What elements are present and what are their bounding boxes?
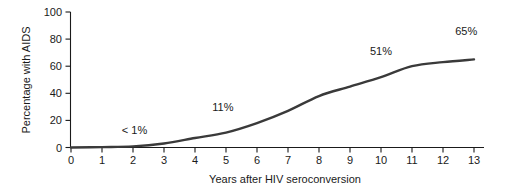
x-tick-label-11: 11 (406, 154, 417, 166)
x-tick-label-12: 12 (437, 154, 449, 166)
x-axis-tick-labels: 0 1 2 3 4 5 6 7 8 9 10 11 12 13 (68, 154, 480, 166)
y-tick-label-0: 0 (56, 142, 62, 154)
x-axis-ticks (71, 148, 474, 153)
annotation-label-51: 51% (370, 45, 392, 57)
x-tick-label-2: 2 (130, 154, 136, 166)
line-chart: 0 20 40 60 80 100 Percentage with AIDS (0, 0, 524, 191)
x-tick-label-7: 7 (285, 154, 291, 166)
x-axis: 0 1 2 3 4 5 6 7 8 9 10 11 12 13 Years af… (68, 148, 484, 186)
y-tick-label-60: 60 (50, 60, 62, 72)
x-tick-label-5: 5 (223, 154, 229, 166)
x-tick-label-0: 0 (68, 154, 74, 166)
y-tick-label-100: 100 (44, 6, 62, 18)
y-tick-label-80: 80 (50, 33, 62, 45)
y-tick-label-20: 20 (50, 114, 62, 126)
x-tick-label-13: 13 (468, 154, 480, 166)
x-tick-label-9: 9 (347, 154, 353, 166)
y-axis-ticks (66, 12, 71, 148)
x-tick-label-1: 1 (99, 154, 105, 166)
x-tick-label-6: 6 (254, 154, 260, 166)
x-tick-label-4: 4 (192, 154, 198, 166)
chart-container: 0 20 40 60 80 100 Percentage with AIDS (0, 0, 524, 191)
annotations: < 1% 11% 51% 65% (122, 25, 478, 136)
x-tick-label-3: 3 (161, 154, 167, 166)
y-axis-tick-labels: 0 20 40 60 80 100 (44, 6, 62, 154)
x-axis-title: Years after HIV seroconversion (209, 173, 361, 185)
y-axis-title: Percentage with AIDS (20, 26, 32, 133)
y-axis: 0 20 40 60 80 100 Percentage with AIDS (20, 6, 71, 154)
annotation-label-65: 65% (455, 25, 477, 37)
annotation-label-11: 11% (212, 101, 233, 113)
y-tick-label-40: 40 (50, 87, 62, 99)
x-tick-label-10: 10 (375, 154, 387, 166)
annotation-label-lt1: < 1% (122, 124, 148, 136)
x-tick-label-8: 8 (316, 154, 322, 166)
